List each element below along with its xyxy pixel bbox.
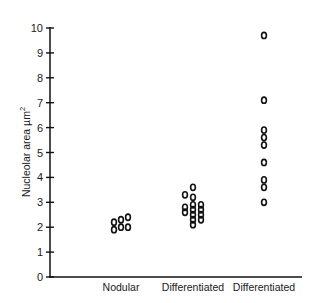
y-axis: 012345678910	[31, 22, 54, 283]
y-tick-label: 10	[31, 22, 43, 34]
data-point-marker	[262, 32, 267, 38]
nucleolar-area-scatter-chart: 012345678910 NodularDifferentiatedDiffer…	[0, 0, 313, 303]
data-point-marker	[262, 127, 267, 133]
y-tick-label: 4	[37, 171, 43, 183]
y-tick-label: 8	[37, 72, 43, 84]
data-point-marker	[262, 184, 267, 190]
data-point-marker	[112, 219, 117, 225]
x-category-label: Differentiated	[233, 281, 295, 293]
data-point-marker	[262, 177, 267, 183]
y-tick-label: 5	[37, 147, 43, 159]
data-point-marker	[126, 224, 131, 230]
y-tick-label: 9	[37, 47, 43, 59]
data-points	[112, 32, 267, 232]
x-axis-category-labels: NodularDifferentiatedDifferentiated	[103, 281, 296, 293]
data-point-marker	[119, 217, 124, 223]
y-tick-label: 3	[37, 196, 43, 208]
data-point-marker	[262, 199, 267, 205]
data-point-marker	[191, 194, 196, 200]
y-tick-label: 7	[37, 97, 43, 109]
data-point-marker	[262, 159, 267, 165]
data-point-marker	[126, 214, 131, 220]
y-tick-label: 0	[37, 271, 43, 283]
y-tick-label: 1	[37, 246, 43, 258]
data-point-marker	[191, 184, 196, 190]
data-point-marker	[119, 224, 124, 230]
data-point-marker	[112, 227, 117, 233]
y-tick-label: 6	[37, 122, 43, 134]
y-tick-label: 2	[37, 221, 43, 233]
x-category-label: Nodular	[103, 281, 140, 293]
y-axis-title: Nucleolar area µm2	[18, 107, 32, 197]
x-axis: NodularDifferentiatedDifferentiated	[49, 277, 302, 293]
data-point-marker	[183, 192, 188, 198]
data-point-marker	[262, 142, 267, 148]
data-point-marker	[262, 134, 267, 140]
data-point-marker	[262, 97, 267, 103]
x-category-label: Differentiated	[162, 281, 224, 293]
